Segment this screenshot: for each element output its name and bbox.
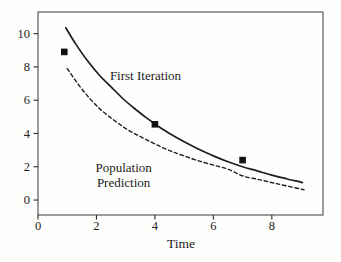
x-axis-tick-label: 8: [269, 219, 275, 233]
annotations-layer: First IterationPopulationPrediction: [95, 68, 181, 190]
data-point-square: [61, 49, 68, 56]
annotation-first-iteration: First Iteration: [110, 68, 182, 83]
y-axis-tick-label: 4: [24, 127, 31, 141]
y-axis-tick-label: 2: [24, 160, 30, 174]
y-axis-tick-label: 8: [24, 60, 30, 74]
figure-page: 024680246810 First IterationPopulationPr…: [0, 0, 341, 262]
x-axis-tick-label: 6: [210, 219, 216, 233]
annotation-population: PopulationPrediction: [95, 160, 152, 190]
line-chart: 024680246810 First IterationPopulationPr…: [0, 0, 341, 262]
data-point-square: [152, 121, 159, 128]
x-axis-tick-label: 0: [35, 219, 41, 233]
data-points-layer: [61, 49, 246, 164]
y-axis-tick-label: 0: [24, 193, 30, 207]
axis-ticks-layer: 024680246810: [18, 27, 275, 233]
y-axis-tick-label: 10: [18, 27, 31, 41]
data-point-square: [239, 157, 246, 164]
x-axis-tick-label: 4: [152, 219, 159, 233]
x-axis-label: Time: [167, 236, 195, 251]
x-axis-tick-label: 2: [93, 219, 99, 233]
y-axis-tick-label: 6: [24, 93, 30, 107]
